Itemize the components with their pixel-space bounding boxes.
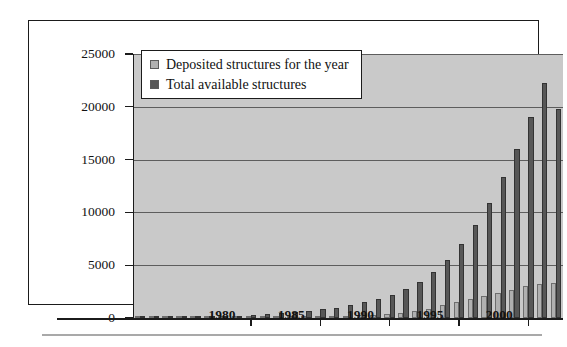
bar-total — [403, 289, 408, 318]
bar-total — [334, 308, 339, 318]
bar-total — [487, 203, 492, 318]
gridline — [133, 107, 563, 108]
x-axis-tick — [250, 318, 252, 326]
y-axis-tick — [125, 159, 133, 160]
bar-total — [306, 311, 311, 318]
bar-total — [514, 149, 519, 318]
x-axis-tick-label: 2000 — [486, 307, 513, 323]
y-axis-tick-label: 20000 — [81, 99, 125, 115]
y-axis-tick — [125, 212, 133, 213]
bar-total — [501, 177, 506, 318]
chart-frame: 0500010000150002000025000 Deposited stru… — [28, 20, 539, 305]
legend-entry-total: Total available structures — [150, 76, 349, 94]
x-axis-tick — [389, 318, 391, 326]
x-axis-tick-label: 1995 — [417, 307, 444, 323]
legend-label-deposited: Deposited structures for the year — [166, 56, 349, 74]
bottom-divider-rule — [42, 334, 542, 336]
legend-entry-deposited: Deposited structures for the year — [150, 56, 349, 74]
bar-total — [459, 244, 464, 318]
x-axis-tick-label: 1985 — [278, 307, 305, 323]
light-gray-swatch-icon — [150, 60, 159, 69]
x-axis-tick-label: 1990 — [347, 307, 374, 323]
bar-total — [473, 225, 478, 318]
x-axis-tick — [458, 318, 460, 326]
bar-total — [556, 109, 561, 318]
gridline — [133, 160, 563, 161]
bar-total — [542, 83, 547, 318]
bar-total — [528, 117, 533, 318]
bar-total — [390, 295, 395, 318]
bar-total — [320, 309, 325, 318]
y-axis-tick — [125, 265, 133, 266]
y-axis-line — [133, 54, 134, 318]
y-axis-tick — [125, 106, 133, 107]
gridline — [133, 212, 563, 213]
x-axis-tick — [320, 318, 322, 326]
x-axis-line-extension — [57, 318, 133, 320]
figure-root: 0500010000150002000025000 Deposited stru… — [0, 0, 567, 347]
bar-total — [376, 299, 381, 318]
y-axis-tick-label: 15000 — [81, 152, 125, 168]
dark-gray-swatch-icon — [150, 80, 159, 89]
legend-label-total: Total available structures — [166, 76, 307, 94]
y-axis-tick-label: 5000 — [88, 257, 125, 273]
x-axis-tick-label: 1980 — [208, 307, 235, 323]
gridline — [133, 265, 563, 266]
chart-legend: Deposited structures for the year Total … — [141, 50, 362, 99]
bar-total — [445, 260, 450, 318]
y-axis-tick-label: 25000 — [81, 46, 125, 62]
y-axis-tick-label: 10000 — [81, 204, 125, 220]
x-axis-tick — [528, 318, 530, 326]
y-axis-tick — [125, 53, 133, 54]
